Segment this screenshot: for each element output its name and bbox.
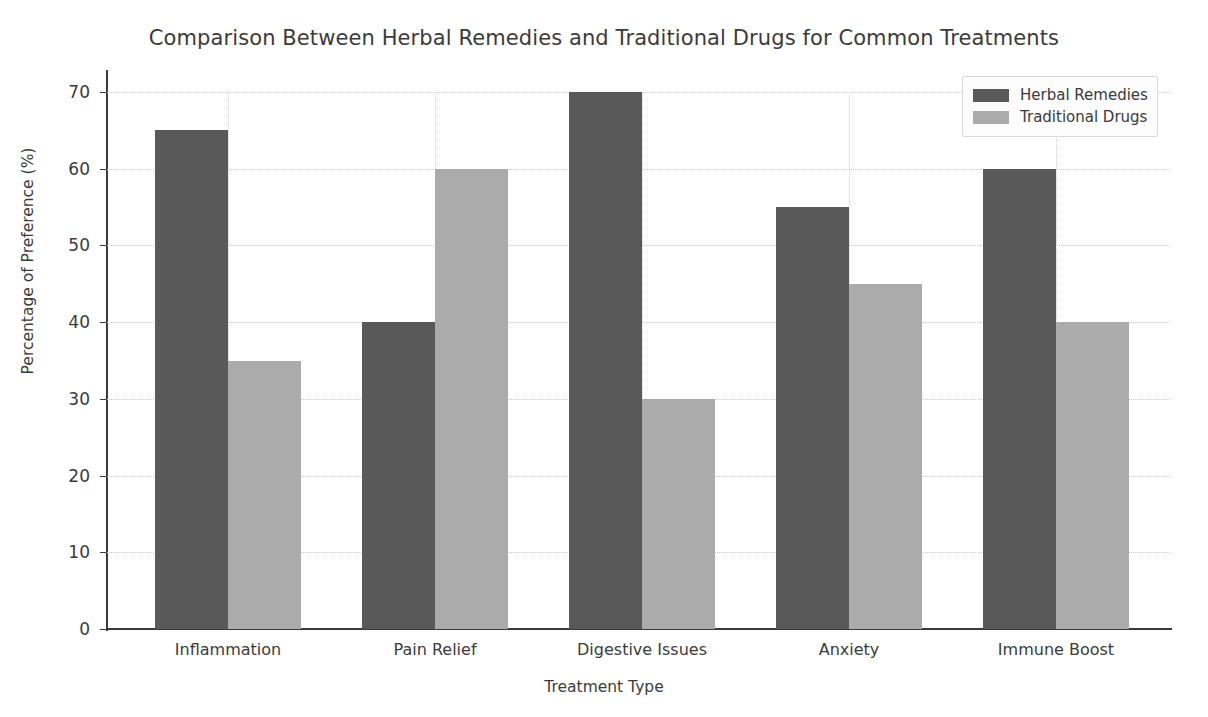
y-tick-mark <box>100 169 107 170</box>
legend-label-traditional-drugs: Traditional Drugs <box>1020 108 1147 126</box>
y-tick-mark <box>100 552 107 553</box>
y-tick-mark <box>100 322 107 323</box>
y-tick-mark <box>100 92 107 93</box>
x-tick-label: Anxiety <box>819 640 880 659</box>
y-tick-label: 40 <box>30 312 90 332</box>
x-axis-label: Treatment Type <box>0 678 1208 696</box>
bar-traditional-drugs <box>228 361 301 630</box>
bar-traditional-drugs <box>642 399 715 629</box>
x-tick-label: Inflammation <box>175 640 281 659</box>
y-tick-mark <box>100 399 107 400</box>
x-tick-label: Digestive Issues <box>577 640 707 659</box>
y-tick-label: 30 <box>30 389 90 409</box>
legend-item-traditional-drugs: Traditional Drugs <box>973 106 1147 128</box>
legend-item-herbal-remedies: Herbal Remedies <box>973 84 1147 106</box>
bar-herbal-remedies <box>569 92 642 629</box>
bar-herbal-remedies <box>362 322 435 629</box>
y-tick-mark <box>100 476 107 477</box>
x-tick-label: Pain Relief <box>393 640 476 659</box>
y-tick-label: 50 <box>30 235 90 255</box>
y-tick-mark <box>100 629 107 630</box>
y-tick-label: 20 <box>30 466 90 486</box>
chart-legend: Herbal Remedies Traditional Drugs <box>962 76 1158 137</box>
legend-swatch-icon-traditional-drugs <box>973 111 1009 124</box>
y-tick-mark <box>100 245 107 246</box>
bar-traditional-drugs <box>1056 322 1129 629</box>
plot-area <box>107 92 1170 629</box>
chart-title: Comparison Between Herbal Remedies and T… <box>0 26 1208 50</box>
bar-herbal-remedies <box>155 130 228 629</box>
y-tick-label: 60 <box>30 159 90 179</box>
bar-traditional-drugs <box>849 284 922 629</box>
bar-herbal-remedies <box>983 169 1056 629</box>
legend-swatch-icon-herbal-remedies <box>973 89 1009 102</box>
y-tick-label: 0 <box>30 619 90 639</box>
legend-label-herbal-remedies: Herbal Remedies <box>1020 86 1148 104</box>
bar-herbal-remedies <box>776 207 849 629</box>
x-tick-label: Immune Boost <box>998 640 1114 659</box>
bar-chart-figure: Comparison Between Herbal Remedies and T… <box>0 0 1208 717</box>
y-tick-label: 10 <box>30 542 90 562</box>
y-tick-label: 70 <box>30 82 90 102</box>
bar-traditional-drugs <box>435 169 508 629</box>
